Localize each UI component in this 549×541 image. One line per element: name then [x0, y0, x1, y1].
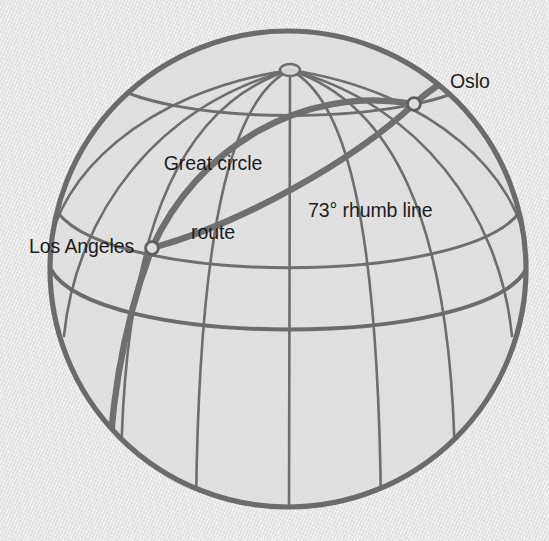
great-circle-route-label-line2: route [159, 221, 267, 244]
north-pole-marker [280, 64, 300, 76]
rhumb-line-label: 73° rhumb line [308, 199, 433, 222]
oslo-marker[interactable] [408, 98, 421, 111]
los-angeles-label: Los Angeles [29, 235, 134, 258]
globe-diagram: Great circle route 73° rhumb line Oslo L… [0, 0, 549, 541]
oslo-label: Oslo [450, 70, 490, 93]
great-circle-route-label: Great circle route [159, 106, 267, 290]
los-angeles-marker[interactable] [146, 242, 159, 255]
meridian-central [289, 70, 290, 508]
great-circle-route-label-line1: Great circle [159, 152, 267, 175]
